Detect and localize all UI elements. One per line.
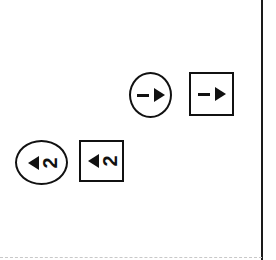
marker-1-circle-label [137,88,165,102]
triangle-left-icon [88,154,99,168]
triangle-right-icon [215,87,226,101]
rotated-two-glyph: 2 [100,155,120,166]
marker-2-square-label: 2 [88,151,115,171]
frame-right-border [261,0,263,260]
marker-1-circle [129,72,172,118]
triangle-left-icon [28,156,39,170]
frame-bottom-border [0,257,262,258]
marker-2-circle-label: 2 [28,153,55,173]
marker-1-square [189,72,234,116]
marker-2-square: 2 [79,140,124,182]
rotated-one-glyph [137,94,149,97]
marker-1-square-label [198,87,226,101]
marker-2-circle: 2 [15,140,68,185]
triangle-right-icon [154,88,165,102]
rotated-one-glyph [198,93,210,96]
rotated-two-glyph: 2 [40,157,60,168]
